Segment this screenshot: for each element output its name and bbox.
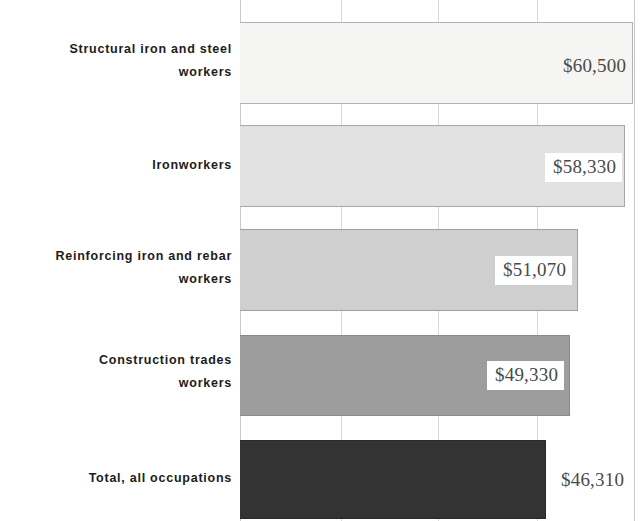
value-label-total-all-occupations: $46,310 xyxy=(553,466,628,495)
value-label-ironworkers: $58,330 xyxy=(545,153,622,182)
category-label-line1: Total, all occupations xyxy=(89,471,232,485)
category-label-ironworkers: Ironworkers xyxy=(8,154,232,177)
category-label-line2: workers xyxy=(8,61,232,84)
category-label-line1: Ironworkers xyxy=(152,158,232,172)
bar-row-construction-trades-workers: Construction trades workers $49,330 xyxy=(0,335,642,416)
value-label-reinforcing-iron-and-rebar-workers: $51,070 xyxy=(495,256,572,285)
bar-chart: Structural iron and steel workers $60,50… xyxy=(0,0,642,521)
value-label-construction-trades-workers: $49,330 xyxy=(487,361,564,390)
category-label-line2: workers xyxy=(8,372,232,395)
category-label-total-all-occupations: Total, all occupations xyxy=(8,467,232,490)
bar-row-total-all-occupations: Total, all occupations $46,310 xyxy=(0,440,642,519)
category-label-construction-trades-workers: Construction trades workers xyxy=(8,349,232,395)
category-label-line1: Construction trades xyxy=(99,353,232,367)
category-label-line2: workers xyxy=(8,268,232,291)
bar-row-ironworkers: Ironworkers $58,330 xyxy=(0,125,642,207)
category-label-reinforcing-iron-and-rebar-workers: Reinforcing iron and rebar workers xyxy=(8,245,232,291)
category-label-line1: Reinforcing iron and rebar xyxy=(56,249,232,263)
bar-total-all-occupations xyxy=(240,440,546,519)
category-label-structural-iron-and-steel-workers: Structural iron and steel workers xyxy=(8,38,232,84)
category-label-line1: Structural iron and steel xyxy=(69,42,232,56)
bar-row-structural-iron-and-steel-workers: Structural iron and steel workers $60,50… xyxy=(0,22,642,104)
bar-row-reinforcing-iron-and-rebar-workers: Reinforcing iron and rebar workers $51,0… xyxy=(0,229,642,311)
value-label-structural-iron-and-steel-workers: $60,500 xyxy=(555,52,630,81)
